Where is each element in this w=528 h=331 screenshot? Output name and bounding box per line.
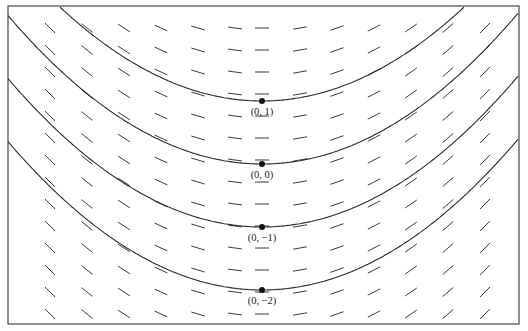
solution-curve-1 xyxy=(60,7,464,101)
slope-segment xyxy=(330,158,343,163)
slope-segment xyxy=(82,200,93,209)
slope-segment xyxy=(368,25,380,31)
slope-segment xyxy=(155,311,168,317)
point-marker xyxy=(259,98,265,104)
slope-segment xyxy=(405,134,417,142)
slope-segment xyxy=(228,203,242,205)
slope-segment xyxy=(443,155,454,164)
slope-segment xyxy=(45,243,55,253)
slope-segment xyxy=(293,137,307,139)
slope-segment xyxy=(293,313,307,315)
slope-segment xyxy=(480,199,490,209)
slope-segment xyxy=(45,45,55,55)
slope-segment xyxy=(228,291,242,293)
slope-segment xyxy=(228,181,242,183)
slope-segment xyxy=(443,89,454,98)
point-marker xyxy=(259,224,265,230)
slope-segment xyxy=(330,202,343,207)
slope-segment xyxy=(228,137,242,139)
slope-segment xyxy=(155,47,168,53)
slope-segment xyxy=(45,221,55,231)
point-label: (0, −1) xyxy=(248,232,277,244)
slope-segment xyxy=(293,115,307,117)
slope-segment xyxy=(228,159,242,161)
slope-segment xyxy=(82,134,93,143)
slope-segment xyxy=(330,26,343,31)
slope-segment xyxy=(228,115,242,117)
slope-segment xyxy=(118,222,130,230)
slope-segment xyxy=(191,26,204,30)
slope-segment xyxy=(405,68,417,76)
slope-segment xyxy=(293,269,307,271)
slope-segment xyxy=(293,225,307,227)
slope-segment xyxy=(293,27,307,29)
slope-segment xyxy=(118,156,130,164)
slope-segment xyxy=(82,266,93,275)
slope-segment xyxy=(118,90,130,98)
slope-segment xyxy=(191,224,204,228)
slope-segment xyxy=(228,49,242,51)
slope-segment xyxy=(228,269,242,271)
point-label: (0, 0) xyxy=(251,169,274,181)
slope-segment xyxy=(45,155,55,165)
slope-segment xyxy=(191,158,204,162)
slope-segment xyxy=(82,288,93,297)
slope-segment xyxy=(228,313,242,315)
slope-segment xyxy=(191,70,204,74)
slope-segment xyxy=(118,68,130,76)
slope-segment xyxy=(480,89,490,99)
slope-segment xyxy=(82,244,93,253)
slope-segment xyxy=(191,48,204,52)
slope-segment xyxy=(480,265,490,275)
slope-segment xyxy=(118,134,130,142)
slope-segment xyxy=(480,23,490,33)
slope-segment xyxy=(405,244,417,252)
point-marker xyxy=(259,287,265,293)
slope-segment xyxy=(118,266,130,274)
slope-segment xyxy=(405,90,417,98)
slope-segment xyxy=(368,113,380,119)
slope-segment xyxy=(368,201,380,207)
slope-segment xyxy=(405,310,417,318)
slope-segment xyxy=(405,266,417,274)
slope-segment xyxy=(330,290,343,295)
slope-segment xyxy=(191,180,204,184)
slope-segment xyxy=(443,309,454,318)
slope-segment xyxy=(191,114,204,118)
slope-segment xyxy=(330,92,343,97)
slope-field-figure: (0, 1) (0, 0) (0, −1) (0, −2) xyxy=(0,0,528,331)
slope-segment xyxy=(443,133,454,142)
slope-segment xyxy=(155,179,168,185)
slope-segment xyxy=(155,223,168,229)
slope-segment xyxy=(45,309,55,319)
slope-segment xyxy=(443,287,454,296)
slope-segment xyxy=(368,179,380,185)
slope-segment xyxy=(82,178,93,187)
slope-segment xyxy=(191,202,204,206)
slope-segment xyxy=(443,111,454,120)
point-label: (0, 1) xyxy=(251,106,274,118)
slope-segment xyxy=(118,244,130,252)
slope-segment xyxy=(405,200,417,208)
slope-segment xyxy=(191,268,204,272)
slope-segment xyxy=(293,93,307,95)
slope-segment xyxy=(191,136,204,140)
slope-segment xyxy=(293,181,307,183)
slope-segment xyxy=(228,247,242,249)
slope-segment xyxy=(330,48,343,53)
slope-segment xyxy=(368,289,380,295)
slope-segment xyxy=(480,243,490,253)
slope-segment xyxy=(118,310,130,318)
slope-segment xyxy=(155,25,168,31)
slope-segment xyxy=(82,68,93,77)
slope-segment xyxy=(330,268,343,273)
slope-segment xyxy=(480,221,490,231)
slope-segment xyxy=(45,287,55,297)
slope-segment xyxy=(155,157,168,163)
slope-segment xyxy=(118,178,130,186)
slope-segment xyxy=(155,69,168,75)
slope-segment xyxy=(330,224,343,229)
slope-segment xyxy=(228,27,242,29)
slope-field-plot: (0, 1) (0, 0) (0, −1) (0, −2) xyxy=(0,0,528,331)
slope-segment xyxy=(228,93,242,95)
